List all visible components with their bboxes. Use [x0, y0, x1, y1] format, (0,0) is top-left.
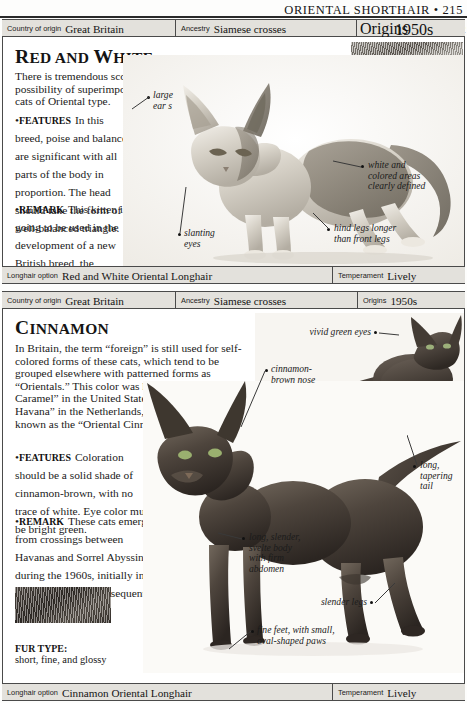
running-head: ORIENTAL SHORTHAIR • 215	[0, 0, 467, 16]
databar2-country-value: Great Britain	[65, 293, 124, 308]
databar-ancestry-label: Ancestry	[176, 21, 214, 36]
databar2-country-cell: Country of origin Great Britain	[2, 292, 175, 308]
databar-origins-cell-overlay: Origins 1950s	[356, 19, 465, 37]
callout-svelte-body: long, slender, svelte body with firm abd…	[249, 532, 300, 574]
long-tapering-tail-leader-line	[407, 435, 423, 467]
footbar-longhair-cell: Longhair option Red and White Oriental L…	[2, 267, 332, 283]
remark-label: REMARK	[19, 204, 64, 215]
databar-country-cell: Country of origin Great Britain	[2, 20, 175, 36]
databar2-ancestry-cell: Ancestry Siamese crosses	[175, 292, 358, 308]
footbar-longhair-label: Longhair option	[2, 268, 62, 283]
cinnamon-brown-nose-leader-line	[239, 367, 267, 429]
footbar2-longhair-label: Longhair option	[2, 685, 62, 700]
svelte-body-leader-line	[218, 531, 244, 543]
footbar2-longhair-value: Cinnamon Oriental Longhair	[62, 685, 192, 700]
footbar-red-and-white: Longhair option Red and White Oriental L…	[2, 266, 465, 284]
large-ears-leader-line	[131, 95, 151, 111]
databar2-origins-value: 1950s	[390, 293, 417, 308]
slender-legs-leader-line	[375, 583, 399, 605]
callout-svelte-body-text: long, slender, svelte body with firm abd…	[249, 531, 300, 574]
callout-cinnamon-brown-nose-text: cinnamon- brown nose	[271, 363, 315, 385]
book-page: ORIENTAL SHORTHAIR • 215 Country of orig…	[0, 0, 467, 703]
fur-swatch-photo-cinnamon	[15, 587, 111, 623]
databar2-origins-cell: Origins 1950s	[357, 292, 466, 308]
slanting-eyes-leader-line	[177, 187, 191, 235]
callout-slender-legs: slender legs	[293, 597, 367, 608]
title-rest-ed-and: ED AND	[29, 49, 93, 66]
panel-cinnamon: CINNAMON In Britain, the term “foreign” …	[2, 309, 465, 683]
breed-title-cinnamon: CINNAMON	[15, 317, 109, 339]
databar2-ancestry-value: Siamese crosses	[214, 293, 286, 308]
title-cap-w: W	[94, 46, 114, 67]
fur-type-label-2: FUR TYPE:	[15, 643, 67, 654]
callout-fine-feet: fine feet, with small, oval-shaped paws	[257, 625, 335, 646]
databar-cinnamon: Country of origin Great Britain Ancestry…	[2, 291, 465, 309]
panel-red-and-white: RED AND WHITE There is tremendous scope …	[2, 37, 465, 266]
footbar2-temperament-value: Lively	[387, 685, 416, 700]
title-rest-innamon: INNAMON	[29, 320, 109, 337]
footbar-temperament-value: Lively	[387, 268, 416, 283]
footbar-longhair-value: Red and White Oriental Longhair	[62, 268, 212, 283]
remark-label-2: REMARK	[19, 516, 64, 527]
remark-block-red-and-white: •REMARK This kitten is going to be used …	[15, 199, 133, 266]
footbar2-temperament-cell: Temperament Lively	[332, 684, 466, 700]
white-colored-areas-leader-line	[333, 159, 363, 171]
databar2-ancestry-label: Ancestry	[176, 293, 214, 308]
fine-feet-leader-line	[229, 629, 253, 651]
footbar2-longhair-cell: Longhair option Cinnamon Oriental Longha…	[2, 684, 332, 700]
title-cap-c: C	[15, 317, 29, 338]
callout-hind-legs: hind legs longer than front legs	[334, 223, 396, 244]
databar2-country-label: Country of origin	[2, 293, 65, 308]
callout-white-colored-areas-text: white and colored areas clearly defined	[368, 159, 425, 191]
title-cap-r: R	[15, 46, 29, 67]
features-label-2: FEATURES	[19, 452, 71, 463]
callout-large-ears-text: large ear s	[153, 89, 173, 111]
callout-hind-legs-text: hind legs longer than front legs	[334, 222, 396, 244]
vivid-green-eyes-dot	[374, 331, 377, 334]
header-rule	[0, 16, 467, 18]
callout-slender-legs-text: slender legs	[321, 596, 367, 607]
callout-large-ears: large ear s	[153, 90, 173, 111]
vivid-green-eyes-leader-line	[379, 329, 401, 339]
footbar-temperament-label: Temperament	[333, 268, 387, 283]
footbar2-temperament-label: Temperament	[333, 685, 387, 700]
footbar-cinnamon: Longhair option Cinnamon Oriental Longha…	[2, 683, 465, 701]
slender-legs-dot	[370, 601, 373, 604]
callout-long-tapering-tail: long, tapering tail	[420, 460, 453, 492]
callout-vivid-green-eyes-text: vivid green eyes	[310, 326, 371, 337]
features-label: FEATURES	[19, 115, 71, 126]
databar-country-label: Country of origin	[2, 21, 65, 36]
databar-ancestry-value: Siamese crosses	[214, 21, 286, 36]
callout-long-tapering-tail-text: long, tapering tail	[420, 459, 453, 491]
hind-legs-leader-line	[313, 213, 331, 231]
fur-type-value-2: short, fine, and glossy	[15, 654, 107, 665]
callout-cinnamon-brown-nose: cinnamon- brown nose	[271, 364, 315, 385]
callout-white-colored-areas: white and colored areas clearly defined	[368, 160, 425, 192]
databar-country-value: Great Britain	[65, 21, 124, 36]
footbar-temperament-cell: Temperament Lively	[332, 267, 466, 283]
callout-fine-feet-text: fine feet, with small, oval-shaped paws	[257, 624, 335, 646]
databar2-origins-label: Origins	[358, 293, 390, 308]
callout-vivid-green-eyes: vivid green eyes	[283, 327, 371, 338]
